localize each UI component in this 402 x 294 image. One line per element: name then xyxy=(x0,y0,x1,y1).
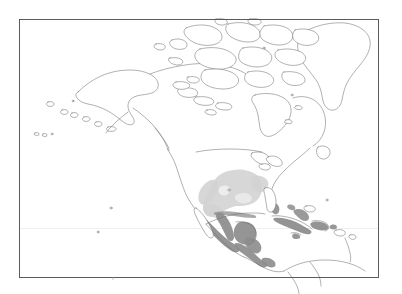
map-canvas xyxy=(0,0,402,294)
coastline-newfoundland xyxy=(317,146,331,159)
figure-page xyxy=(0,0,402,294)
core-range-puerto-rico xyxy=(330,225,338,230)
distribution-map-figure xyxy=(0,0,402,294)
